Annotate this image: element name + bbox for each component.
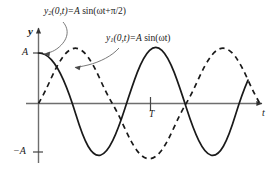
t-axis-label: t (262, 108, 265, 118)
series-label-y1-rhs: (0,t)=A (113, 33, 141, 43)
series-label-y2-func: sin(ωt+π/2) (80, 6, 126, 16)
series-label-y2: y2(0,t)=A sin(ωt+π/2) (44, 7, 126, 17)
callout-arrowhead-y1 (75, 65, 81, 70)
series-label-y1: y1(0,t)=A sin(ωt) (106, 34, 170, 44)
series-label-y1-func: sin(ωt) (142, 33, 171, 43)
callout-leader-y2 (44, 22, 67, 54)
series-label-y2-rhs: (0,t)=A (51, 6, 79, 16)
y-axis-label: y (28, 26, 33, 37)
curve-y2-solid (39, 47, 249, 155)
waveform-plot (0, 0, 276, 177)
tick-label-amplitude: A (22, 47, 28, 57)
tick-label-period: T (149, 110, 154, 120)
tick-label-negative-amplitude: −A (13, 146, 26, 156)
waveform-figure: y2(0,t)=A sin(ωt+π/2) y1(0,t)=A sin(ωt) … (0, 0, 276, 177)
